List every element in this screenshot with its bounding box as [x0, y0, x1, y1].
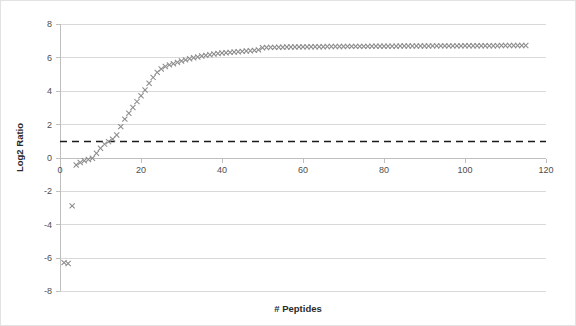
datapoints-group — [61, 43, 528, 266]
data-point-marker — [126, 111, 131, 116]
y-tick-label: 4 — [47, 86, 52, 96]
data-point-marker — [70, 203, 75, 208]
x-tick-label: 0 — [57, 165, 62, 175]
data-point-marker — [130, 105, 135, 110]
y-tick-label: -2 — [44, 186, 52, 196]
y-tick-label: -6 — [44, 253, 52, 263]
axis-lines-group — [60, 24, 546, 291]
data-point-marker — [151, 75, 156, 80]
y-tick-label: -8 — [44, 286, 52, 296]
x-tick-label: 120 — [538, 165, 553, 175]
data-point-marker — [138, 93, 143, 98]
data-point-marker — [523, 43, 528, 48]
x-axis-title: # Peptides — [274, 303, 322, 314]
data-point-marker — [183, 57, 188, 62]
data-point-marker — [179, 58, 184, 63]
data-point-marker — [134, 99, 139, 104]
scatter-plot: -8-6-4-202468 020406080100120 Log2 Ratio… — [1, 1, 576, 326]
y-tick-label: -4 — [44, 220, 52, 230]
y-tick-label: 8 — [47, 19, 52, 29]
data-point-marker — [114, 132, 119, 137]
xtick-labels-group: 020406080100120 — [57, 165, 553, 175]
data-point-marker — [171, 61, 176, 66]
data-point-marker — [175, 60, 180, 65]
x-tick-label: 40 — [217, 165, 227, 175]
chart-container: -8-6-4-202468 020406080100120 Log2 Ratio… — [0, 0, 576, 326]
x-tick-label: 100 — [457, 165, 472, 175]
x-tick-label: 80 — [379, 165, 389, 175]
y-tick-label: 2 — [47, 120, 52, 130]
data-point-marker — [66, 261, 71, 266]
y-tick-label: 6 — [47, 53, 52, 63]
data-point-marker — [122, 117, 127, 122]
y-axis-title: Log2 Ratio — [14, 123, 25, 172]
x-tick-label: 20 — [136, 165, 146, 175]
y-tick-label: 0 — [47, 153, 52, 163]
x-tick-label: 60 — [298, 165, 308, 175]
data-point-marker — [86, 157, 91, 162]
ytick-labels-group: -8-6-4-202468 — [44, 19, 52, 296]
data-point-marker — [94, 151, 99, 156]
data-point-marker — [147, 81, 152, 86]
